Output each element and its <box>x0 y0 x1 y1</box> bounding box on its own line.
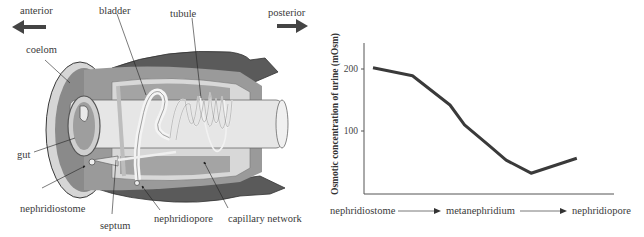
x-label-metanephridium: metanephridium <box>446 206 515 217</box>
coelom-label: coelom <box>26 45 57 56</box>
x-label-nephridiostome: nephridiostome <box>330 206 395 217</box>
osmolarity-chart: 200 100 Osmotic concentration of urine (… <box>330 33 614 214</box>
nephridiopore-label: nephridiopore <box>154 214 213 225</box>
posterior-arrow-icon <box>277 19 308 33</box>
tubule-label: tubule <box>170 9 196 20</box>
nephridiostome-label: nephridiostome <box>20 204 85 215</box>
anterior-label: anterior <box>20 6 53 17</box>
bladder-label: bladder <box>99 6 131 17</box>
y-tick-200: 200 <box>344 64 359 74</box>
anterior-arrow-icon <box>12 20 46 34</box>
x-label-nephridiopore: nephridiopore <box>572 206 631 217</box>
septum-label: septum <box>100 221 130 232</box>
y-tick-100: 100 <box>344 126 359 136</box>
gut-label: gut <box>17 150 30 161</box>
worm-body-segment <box>46 51 288 202</box>
capillary-network-label: capillary network <box>228 214 302 225</box>
metanephridium-diagram: 200 100 Osmotic concentration of urine (… <box>0 0 644 237</box>
data-line <box>373 68 577 173</box>
posterior-label: posterior <box>268 8 305 19</box>
y-axis-label: Osmotic concentration of urine (mOsm) <box>330 33 341 195</box>
